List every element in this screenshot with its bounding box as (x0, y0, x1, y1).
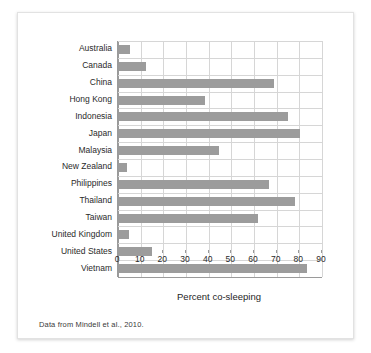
figure-caption: Data from Mindell et al., 2010. (39, 320, 144, 329)
gridline-horizontal (118, 226, 322, 227)
x-tick-label: 40 (203, 254, 212, 264)
figure-card: AustraliaCanadaChinaHong KongIndonesiaJa… (17, 12, 354, 339)
bar-japan (119, 129, 300, 138)
x-tick-mark (117, 250, 118, 253)
x-tick-mark (208, 250, 209, 253)
category-label-hong-kong: Hong Kong (69, 95, 112, 104)
bar-philippines (119, 180, 269, 189)
gridline-horizontal (118, 108, 322, 109)
x-tick-mark (140, 250, 141, 253)
gridline-horizontal (118, 176, 322, 177)
gridline-horizontal (118, 58, 322, 59)
category-label-philippines: Philippines (71, 179, 112, 188)
bar-new-zealand (119, 163, 127, 172)
bar-indonesia (119, 112, 288, 121)
x-tick-mark (321, 250, 322, 253)
x-axis-title: Percent co-sleeping (117, 291, 321, 302)
category-label-taiwan: Taiwan (86, 213, 112, 222)
x-tick-label: 90 (316, 254, 325, 264)
x-tick-label: 0 (115, 254, 120, 264)
category-label-china: China (90, 78, 112, 87)
gridline-horizontal (118, 142, 322, 143)
category-label-vietnam: Vietnam (81, 264, 112, 273)
bar-canada (119, 62, 146, 71)
bar-thailand (119, 197, 295, 206)
x-tick-label: 80 (294, 254, 303, 264)
plot-area (117, 41, 322, 277)
category-label-indonesia: Indonesia (75, 112, 112, 121)
bar-malaysia (119, 146, 219, 155)
gridline-horizontal (118, 92, 322, 93)
x-tick-mark (162, 250, 163, 253)
bar-hong-kong (119, 96, 205, 105)
bar-china (119, 79, 274, 88)
category-label-australia: Australia (79, 44, 112, 53)
bar-chart: AustraliaCanadaChinaHong KongIndonesiaJa… (18, 13, 355, 340)
category-label-thailand: Thailand (79, 196, 112, 205)
bar-australia (119, 45, 130, 54)
x-tick-label: 60 (248, 254, 257, 264)
x-tick-label: 50 (226, 254, 235, 264)
x-tick-label: 30 (180, 254, 189, 264)
x-tick-mark (298, 250, 299, 253)
category-label-malaysia: Malaysia (78, 146, 112, 155)
gridline-horizontal (118, 125, 322, 126)
gridline-horizontal (118, 159, 322, 160)
bar-united-kingdom (119, 230, 129, 239)
category-label-canada: Canada (82, 61, 112, 70)
x-tick-mark (230, 250, 231, 253)
gridline-horizontal (118, 243, 322, 244)
gridline-horizontal (118, 210, 322, 211)
category-label-united-states: United States (61, 247, 112, 256)
x-tick-mark (185, 250, 186, 253)
gridline-horizontal (118, 41, 322, 42)
bar-taiwan (119, 214, 258, 223)
x-tick-mark (253, 250, 254, 253)
x-tick-label: 10 (135, 254, 144, 264)
category-axis-labels: AustraliaCanadaChinaHong KongIndonesiaJa… (18, 41, 112, 277)
gridline-horizontal (118, 193, 322, 194)
x-tick-label: 70 (271, 254, 280, 264)
category-label-japan: Japan (89, 129, 112, 138)
bar-vietnam (119, 264, 307, 273)
gridline-horizontal (118, 75, 322, 76)
gridline-vertical (322, 41, 323, 277)
gridline-horizontal (118, 260, 322, 261)
x-tick-mark (276, 250, 277, 253)
category-label-united-kingdom: United Kingdom (52, 230, 112, 239)
x-tick-label: 20 (158, 254, 167, 264)
category-label-new-zealand: New Zealand (62, 162, 112, 171)
x-axis-line (118, 277, 322, 278)
